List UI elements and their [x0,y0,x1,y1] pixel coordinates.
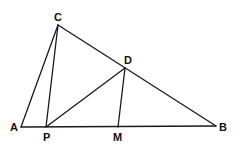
label-P: P [43,131,50,143]
label-M: M [113,131,122,143]
segment-PD [46,68,125,127]
label-C: C [54,11,62,23]
segment-CB [58,25,216,126]
label-B: B [219,121,227,133]
segments [21,25,216,127]
label-A: A [10,121,18,133]
label-D: D [124,54,132,66]
segment-DM [118,68,125,127]
geometry-diagram: A B C D P M [0,0,236,150]
diagram-svg: A B C D P M [0,0,236,150]
